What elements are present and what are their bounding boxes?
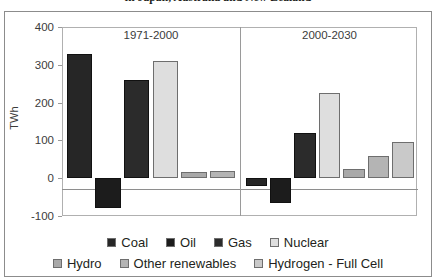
y-tick-label: -100 (10, 211, 54, 221)
panel-title-1: 1971-2000 (62, 29, 240, 41)
panel-divider (240, 27, 241, 216)
bar (124, 80, 149, 178)
y-tick-label: 400 (10, 22, 54, 32)
legend-swatch-icon (214, 238, 223, 247)
legend-label: Nuclear (284, 235, 329, 250)
chart-legend: CoalOilGasNuclearHydroOther renewablesHy… (4, 232, 432, 274)
bar (153, 61, 178, 178)
bar (294, 133, 316, 178)
legend-row: HydroOther renewablesHydrogen - Full Cel… (4, 253, 432, 274)
y-tick-label: 100 (10, 135, 54, 145)
bar (67, 54, 92, 179)
legend-item-coal[interactable]: Coal (107, 235, 148, 250)
legend-swatch-icon (270, 238, 279, 247)
bar (392, 142, 414, 178)
legend-item-hydro[interactable]: Hydro (53, 256, 102, 271)
bar (210, 171, 235, 178)
legend-label: Coal (121, 235, 148, 250)
chart-figure: in Japan, Australia and New Zealand TWh … (0, 0, 436, 280)
panel-title-2: 2000-2030 (241, 29, 418, 41)
bar (319, 93, 341, 178)
legend-label: Oil (180, 235, 196, 250)
legend-label: Hydrogen - Full Cell (268, 256, 383, 271)
legend-label: Hydro (67, 256, 102, 271)
y-tick-label: 200 (10, 98, 54, 108)
bar (246, 178, 268, 186)
bar (95, 178, 120, 208)
bar (343, 169, 365, 179)
legend-item-gas[interactable]: Gas (214, 235, 252, 250)
legend-swatch-icon (254, 259, 263, 268)
bar (270, 178, 292, 203)
legend-item-nuclear[interactable]: Nuclear (270, 235, 329, 250)
legend-label: Gas (228, 235, 252, 250)
bar (368, 156, 390, 179)
legend-swatch-icon (120, 259, 129, 268)
legend-item-oil[interactable]: Oil (166, 235, 196, 250)
chart-title: in Japan, Australia and New Zealand (0, 0, 436, 3)
legend-swatch-icon (166, 238, 175, 247)
y-tick-mark (58, 216, 62, 217)
legend-item-hydrogen-full-cell[interactable]: Hydrogen - Full Cell (254, 256, 383, 271)
bar (181, 172, 206, 178)
legend-swatch-icon (53, 259, 62, 268)
legend-label: Other renewables (134, 256, 237, 271)
y-tick-label: 0 (10, 173, 54, 183)
legend-row: CoalOilGasNuclear (4, 232, 432, 253)
y-tick-label: 300 (10, 60, 54, 70)
legend-item-other-renewables[interactable]: Other renewables (120, 256, 237, 271)
legend-swatch-icon (107, 238, 116, 247)
